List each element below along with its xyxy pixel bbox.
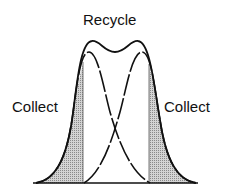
collect-right-label: Collect — [164, 99, 210, 114]
collect-left-label: Collect — [12, 99, 58, 114]
peak-1-curve — [36, 52, 150, 183]
chromatography-diagram: Recycle Collect Collect — [0, 0, 233, 196]
recycle-label: Recycle — [83, 12, 136, 27]
